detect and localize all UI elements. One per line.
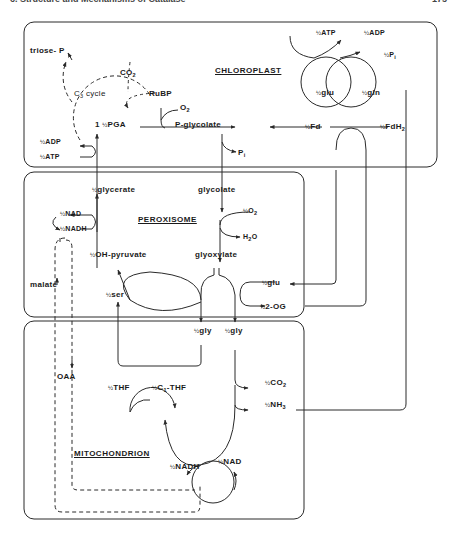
oh-pyruvate-label: ½OH-pyruvate xyxy=(90,250,147,260)
triose-p-label: triose- P xyxy=(30,46,65,56)
p-glycolate-label: P-glycolate xyxy=(175,120,221,130)
c3-cycle-label: C3 cycle xyxy=(74,89,106,101)
pi-top-label: ½Pi xyxy=(384,50,396,62)
oaa-label: OAA xyxy=(57,372,76,382)
glu-chloro-label: ½glu xyxy=(316,88,334,98)
glyoxylate-label: glyoxylate xyxy=(195,250,237,260)
adp-label: ½ADP xyxy=(40,137,61,147)
gln-chloro-label: ½gln xyxy=(362,88,380,98)
nadh-perox-label: ½NADH xyxy=(60,224,87,234)
glycolate-label: glycolate xyxy=(198,185,235,195)
atp-label: ½ATP xyxy=(40,152,60,162)
glycerate-label: ½glycerate xyxy=(92,185,135,195)
pga-label: 1 ½PGA xyxy=(95,120,126,130)
peroxisome-box xyxy=(24,172,304,317)
rubp-label: RuBP xyxy=(149,89,172,99)
o2-label: O2 xyxy=(180,103,190,115)
gly2-label: ½gly xyxy=(225,326,243,336)
nad-mito-label: ½NAD xyxy=(218,457,242,467)
glu-perox-label: ½glu xyxy=(262,278,280,288)
half-o2-label: ½O2 xyxy=(243,206,257,218)
nh3-label: ½NH3 xyxy=(265,400,286,412)
nadh-mito-label: ½NADH xyxy=(170,462,200,472)
pi-label: Pi xyxy=(238,148,245,160)
malate-label: malate xyxy=(30,280,57,290)
co2-label: CO2 xyxy=(120,68,136,80)
ser-label: ½ser xyxy=(106,290,124,300)
nad-perox-label: ½NAD xyxy=(60,209,81,219)
h2o-label: H2O xyxy=(243,232,257,244)
fd-label: ½Fd xyxy=(305,122,321,132)
2-og-label: ½2-OG xyxy=(260,302,286,312)
c1-thf-label: ½C1-THF xyxy=(152,383,186,395)
mitochondrion-box xyxy=(24,321,304,519)
c3-cycle-loop xyxy=(73,76,150,140)
atp-top-label: ½ATP xyxy=(316,28,336,38)
adp-top-label: ½ADP xyxy=(364,28,385,38)
fdh2-label: ½FdH2 xyxy=(380,122,405,134)
chloroplast-title: CHLOROPLAST xyxy=(215,66,281,76)
peroxisome-title: PEROXISOME xyxy=(138,215,197,225)
mitochondrion-title: MITOCHONDRION xyxy=(74,449,150,459)
gly1-label: ½gly xyxy=(194,326,212,336)
thf-label: ½THF xyxy=(108,383,130,393)
co2-mito-label: ½CO2 xyxy=(265,378,286,390)
